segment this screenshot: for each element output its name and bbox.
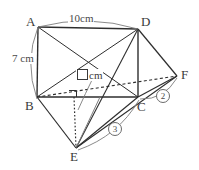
segment-e-helper (76, 97, 100, 148)
dimension-label-ab: 7 cm (11, 53, 35, 64)
dimension-label-ad: 10cm (68, 13, 94, 24)
vertex-label-d: D (141, 15, 150, 28)
triangle-dcf (138, 29, 177, 97)
rectangle-diagonals (37, 27, 138, 97)
segment-ec (76, 97, 138, 148)
ratio-label-ce: 3 (108, 122, 122, 136)
lines-from-e (37, 29, 177, 148)
geometry-figure: A D B C F E 10cm 7 cm cm 2 3 (0, 0, 199, 170)
segment-ef (76, 76, 177, 148)
vertex-label-f: F (181, 68, 188, 81)
segment-ad (38, 27, 138, 29)
segment-ed (76, 29, 138, 148)
perpendicular-height-dotted (74, 97, 76, 148)
empty-answer-box (77, 69, 88, 80)
segment-df (138, 29, 177, 76)
vertex-label-b: B (25, 99, 34, 112)
segment-ba (37, 27, 38, 97)
ratio-label-cf: 2 (156, 89, 170, 103)
leader-line-height (78, 80, 92, 110)
vertex-label-c: C (137, 100, 146, 113)
vertex-label-a: A (26, 15, 35, 28)
segment-eb (37, 97, 76, 148)
unknown-height-label: cm (76, 69, 103, 81)
vertex-label-e: E (70, 150, 78, 163)
unknown-height-unit: cm (89, 69, 102, 81)
